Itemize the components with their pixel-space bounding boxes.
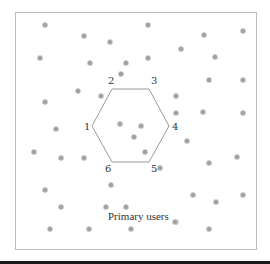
vertex-label: 6 [105, 163, 111, 174]
user-dot [173, 93, 178, 98]
user-dot [75, 88, 80, 93]
user-dot [103, 204, 108, 209]
vertex-label: 3 [151, 75, 157, 86]
user-dots [31, 22, 245, 231]
user-dot [123, 204, 128, 209]
vertex-label: 4 [172, 121, 178, 132]
user-dot [53, 126, 58, 131]
user-dot [87, 60, 92, 65]
user-dot [128, 226, 133, 231]
user-dot [42, 22, 47, 27]
vertex-labels: 123456 [84, 75, 178, 174]
user-dot [107, 39, 112, 44]
user-dot [42, 99, 47, 104]
user-dot [58, 155, 63, 160]
user-dot [173, 110, 178, 115]
user-dot [145, 55, 150, 60]
vertex-label: 1 [84, 121, 90, 132]
user-dot [206, 226, 211, 231]
user-dot [123, 60, 128, 65]
user-dot [42, 187, 47, 192]
user-dot [213, 199, 218, 204]
user-dot [86, 226, 91, 231]
user-dot [206, 77, 211, 82]
user-dot [47, 226, 52, 231]
user-dot [234, 154, 239, 159]
user-dot [98, 93, 103, 98]
primary-users-caption: Primary users [108, 210, 169, 222]
user-dot [206, 160, 211, 165]
vertex-label: 2 [108, 75, 114, 86]
user-dot [172, 219, 177, 224]
user-dot [138, 123, 143, 128]
user-dot [142, 149, 147, 154]
vertex-label: 5 [151, 163, 157, 174]
user-dot [190, 192, 195, 197]
user-dot [212, 54, 217, 59]
user-dot [145, 22, 150, 27]
user-dot [37, 55, 42, 60]
user-dot [240, 77, 245, 82]
user-dot [81, 33, 86, 38]
user-dot [240, 110, 245, 115]
coverage-diagram: 123456 Primary users [0, 0, 270, 264]
user-dot [240, 192, 245, 197]
user-dot [81, 155, 86, 160]
user-dot [131, 134, 136, 139]
user-dot [178, 46, 183, 51]
user-dot [118, 71, 123, 76]
user-dot [184, 138, 189, 143]
user-dot [157, 165, 162, 170]
user-dot [200, 109, 205, 114]
user-dot [31, 149, 36, 154]
hexagonal-cell [92, 89, 169, 162]
user-dot [117, 121, 122, 126]
user-dot [58, 204, 63, 209]
user-dot [201, 32, 206, 37]
user-dot [108, 182, 113, 187]
user-dot [240, 28, 245, 33]
